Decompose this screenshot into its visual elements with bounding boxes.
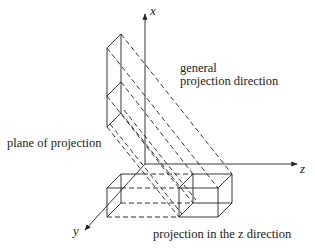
diagram-figure	[0, 0, 315, 248]
x-axis-label: x	[150, 4, 156, 17]
z-projection-label: projection in the z direction	[153, 228, 291, 241]
projection-diagram: x z y general projection direction plane…	[0, 0, 315, 248]
z-projection-box	[107, 174, 143, 217]
plane-of-projection-label: plane of projection	[7, 137, 101, 150]
z-axis-label: z	[300, 162, 305, 175]
general-direction-label-2: projection direction	[180, 75, 278, 88]
y-axis-label: y	[73, 224, 79, 237]
plane-box	[107, 34, 121, 127]
